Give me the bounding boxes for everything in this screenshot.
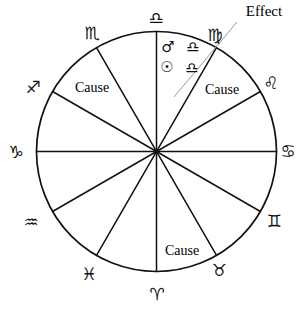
zodiac-glyph-pisces: ♓ [81, 266, 96, 283]
astrological-chart-figure: ♎♍♌♋♊♉♈♓♒♑♐♏ ♂♎☉♎ CauseCauseCauseEffect [0, 0, 306, 315]
zodiac-glyph-aquarius: ♒ [23, 214, 38, 231]
wheel-center-hub [154, 149, 159, 154]
zodiac-glyph-gemini: ♊ [266, 213, 281, 230]
cause-label-bottom: Cause [165, 244, 199, 258]
cause-label-upper-left: Cause [75, 81, 109, 95]
effect-label: Effect [246, 4, 282, 19]
zodiac-glyph-virgo: ♍ [207, 27, 222, 44]
zodiac-glyph-aries: ♈ [149, 286, 164, 303]
zodiac-glyph-leo: ♌ [263, 75, 278, 92]
wheel-geometry [37, 22, 277, 272]
zodiac-glyph-libra: ♎ [148, 10, 163, 27]
placement-sign-glyph-mars-in-libra: ♎ [186, 40, 199, 55]
zodiac-glyph-scorpio: ♏ [84, 25, 99, 42]
planet-glyph-mars: ♂ [161, 40, 174, 55]
zodiac-glyph-sagittarius: ♐ [25, 79, 40, 96]
zodiac-glyph-cancer: ♋ [280, 143, 295, 160]
chart-wheel-svg [0, 0, 306, 315]
zodiac-glyph-taurus: ♉ [211, 262, 226, 279]
cause-label-upper-right: Cause [205, 83, 239, 97]
placement-sign-glyph-sun-in-libra: ♎ [185, 61, 198, 76]
planet-glyph-sun: ☉ [160, 60, 173, 75]
zodiac-glyph-capricorn: ♑ [8, 144, 23, 161]
